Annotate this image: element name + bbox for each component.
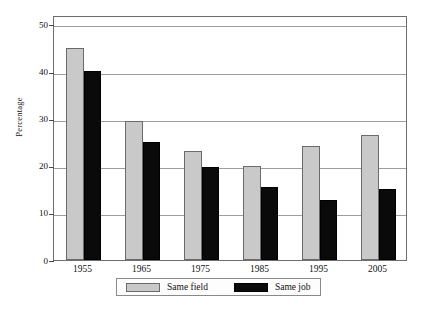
y-axis-tick-label: 0 [28, 257, 48, 266]
bar-same-job [379, 189, 397, 260]
legend-label: Same field [167, 282, 208, 292]
bar-same-job [261, 187, 279, 261]
y-axis-tick-label: 20 [28, 162, 48, 171]
bars-container [54, 17, 406, 260]
x-axis-tick-label: 1955 [53, 263, 112, 275]
x-axis-tick-label: 2005 [348, 263, 407, 275]
bar-same-field [66, 48, 84, 260]
x-axis-tick-label: 1985 [230, 263, 289, 275]
legend-swatch-same-field [126, 283, 160, 292]
y-axis-title: Percentage [14, 62, 24, 172]
bar-same-field [184, 151, 202, 260]
y-axis-tick-label: 30 [28, 115, 48, 124]
legend-label: Same job [275, 282, 311, 292]
bar-same-job [202, 167, 220, 260]
chart-legend: Same fieldSame job [116, 278, 321, 296]
bar-chart-figure: Percentage 01020304050 19551965197519851… [0, 0, 421, 314]
bar-same-field [302, 146, 320, 260]
bar-same-job [84, 71, 102, 260]
x-axis-tick-label: 1995 [289, 263, 348, 275]
y-axis-tick-mark [49, 214, 54, 215]
x-axis-tick-labels: 195519651975198519952005 [53, 263, 407, 279]
bar-same-field [361, 135, 379, 260]
y-axis-tick-mark [49, 167, 54, 168]
y-axis-tick-label: 10 [28, 209, 48, 218]
y-axis-tick-mark [49, 120, 54, 121]
x-axis-tick-label: 1975 [171, 263, 230, 275]
y-axis-tick-mark [49, 73, 54, 74]
y-axis-tick-mark [49, 25, 54, 26]
legend-swatch-same-job [234, 283, 268, 292]
bar-same-job [320, 200, 338, 260]
bar-same-field [125, 121, 143, 260]
y-axis-tick-labels: 01020304050 [26, 0, 48, 314]
y-axis-tick-mark [49, 261, 54, 262]
bar-same-field [243, 166, 261, 260]
legend-entry: Same field [126, 282, 208, 292]
legend-entry: Same job [234, 282, 311, 292]
x-axis-tick-label: 1965 [112, 263, 171, 275]
plot-area [53, 16, 407, 261]
y-axis-tick-label: 40 [28, 68, 48, 77]
y-axis-tick-label: 50 [28, 21, 48, 30]
bar-same-job [143, 142, 161, 260]
